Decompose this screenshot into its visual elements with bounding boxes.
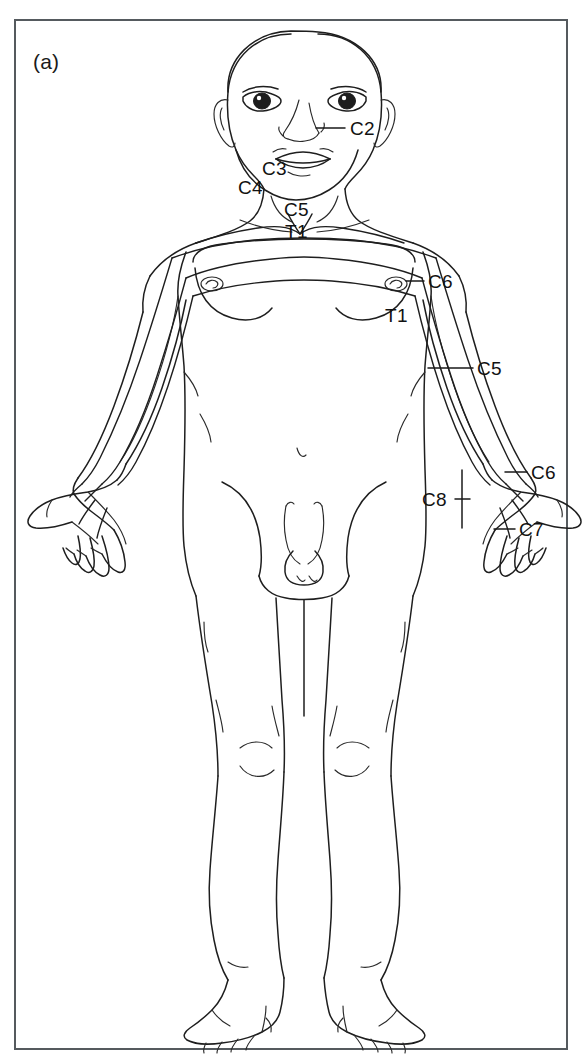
dermatome-figure-panel: (a) [0,0,583,1059]
dermatome-label-c2: C2 [350,119,375,138]
dermatome-label-c5-neck: C5 [284,200,309,219]
dermatome-label-c8-hand: C8 [422,490,447,509]
dermatome-label-c5-arm: C5 [477,359,502,378]
legs-group [196,596,413,980]
dermatome-label-c4: C4 [238,178,263,197]
dermatome-label-c6-hand: C6 [531,463,556,482]
head-group [214,31,395,200]
torso-group [143,239,466,600]
feet-group [184,978,425,1053]
dermatome-label-c7-hand: C7 [519,520,544,539]
dermatome-label-c3: C3 [262,159,287,178]
body-diagram [0,0,583,1059]
dermatome-boundary-lines [70,227,538,538]
dermatome-label-t1-neck: T1 [285,222,308,241]
label-leader-lines [316,128,527,529]
dermatome-label-t1-arm: T1 [385,306,408,325]
dermatome-label-c6-arm: C6 [428,272,453,291]
